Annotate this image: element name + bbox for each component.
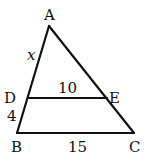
length-label-de: 10 xyxy=(58,79,77,97)
triangle-diagram: A D E B C x 10 4 15 xyxy=(0,0,150,164)
length-label-bc: 15 xyxy=(68,138,87,156)
vertex-label-a: A xyxy=(43,6,55,24)
segment-ab xyxy=(17,26,49,133)
vertex-label-c: C xyxy=(129,138,140,156)
vertex-label-e: E xyxy=(109,89,120,107)
length-label-db: 4 xyxy=(7,107,17,125)
vertex-label-d: D xyxy=(4,89,16,107)
vertex-label-b: B xyxy=(11,138,22,156)
length-label-ad: x xyxy=(27,46,36,64)
